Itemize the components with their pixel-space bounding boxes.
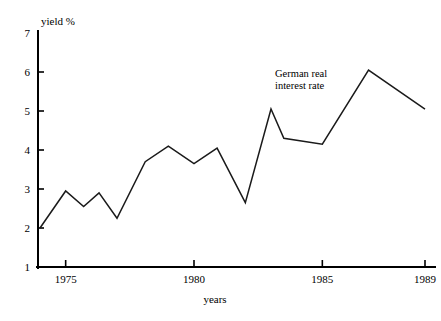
y-tick-label: 6 bbox=[25, 66, 31, 78]
x-tick-label: 1989 bbox=[414, 273, 437, 285]
y-tick-label: 7 bbox=[25, 27, 31, 39]
chart-container: yield % 1234567 1975198019851989 German … bbox=[0, 0, 441, 321]
line-chart-svg: yield % 1234567 1975198019851989 German … bbox=[0, 0, 441, 321]
x-tick-label: 1985 bbox=[311, 273, 334, 285]
annotation-label-line-1: German real bbox=[275, 68, 327, 79]
x-tick-label: 1980 bbox=[183, 273, 206, 285]
y-tick-label: 5 bbox=[25, 105, 31, 117]
y-tick-label: 2 bbox=[25, 222, 31, 234]
x-axis-title: years bbox=[203, 293, 226, 305]
series-line-german-real-interest-rate bbox=[40, 70, 425, 228]
y-axis-ticks: 1234567 bbox=[25, 27, 45, 273]
annotation-label-line-2: interest rate bbox=[275, 80, 325, 91]
x-tick-label: 1975 bbox=[55, 273, 78, 285]
y-tick-label: 3 bbox=[25, 183, 31, 195]
y-axis-title: yield % bbox=[41, 15, 75, 27]
y-tick-label: 1 bbox=[25, 261, 31, 273]
y-tick-label: 4 bbox=[25, 144, 31, 156]
x-axis-ticks: 1975198019851989 bbox=[55, 260, 437, 285]
